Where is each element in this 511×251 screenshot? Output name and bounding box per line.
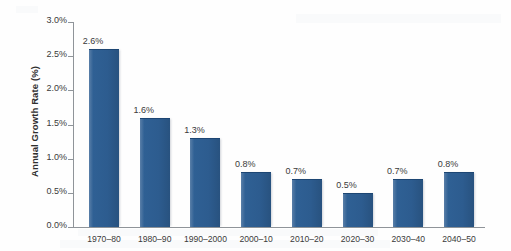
x-tick-label: 2020–30 (332, 234, 384, 244)
bar[interactable] (140, 118, 170, 227)
y-tick-mark (68, 56, 74, 57)
bar-value-label: 0.8% (422, 159, 474, 169)
x-axis-line (73, 227, 485, 228)
x-tick-label: 1980–90 (129, 234, 181, 244)
x-tick-label: 1970–80 (78, 234, 130, 244)
y-tick-label: 2.0% (46, 83, 67, 93)
bar[interactable] (343, 193, 373, 227)
y-tick-label: 1.0% (46, 152, 67, 162)
bar-value-label: 0.8% (219, 159, 271, 169)
bar-value-label: 0.5% (321, 180, 373, 190)
x-tick-label: 1990–2000 (179, 234, 231, 244)
bar-slot[interactable]: 0.7% (281, 22, 333, 227)
bar[interactable] (292, 179, 322, 227)
bar-value-label: 1.3% (168, 125, 220, 135)
y-tick-label: 0.5% (46, 186, 67, 196)
y-axis-title: Annual Growth Rate (%) (29, 42, 40, 202)
y-tick-mark (68, 159, 74, 160)
y-tick-mark (68, 22, 74, 23)
y-tick-label: 0.0% (46, 220, 67, 230)
bar[interactable] (393, 179, 423, 227)
y-tick-label: 3.0% (46, 15, 67, 25)
scan-artifact (16, 6, 38, 13)
y-tick-mark (68, 90, 74, 91)
x-tick-label: 2000–10 (230, 234, 282, 244)
x-tick-label: 2030–40 (382, 234, 434, 244)
y-tick-mark (68, 193, 74, 194)
bar-value-label: 1.6% (118, 105, 170, 115)
bar-slot[interactable]: 0.8% (433, 22, 485, 227)
bar-slot[interactable]: 0.8% (230, 22, 282, 227)
bar-value-label: 0.7% (270, 166, 322, 176)
y-tick-label: 2.5% (46, 49, 67, 59)
x-tick-label: 2010–20 (281, 234, 333, 244)
bar[interactable] (444, 172, 474, 227)
bar-slot[interactable]: 0.5% (332, 22, 384, 227)
bar-slot[interactable]: 1.3% (179, 22, 231, 227)
bar-value-label: 0.7% (371, 166, 423, 176)
y-tick-label: 1.5% (46, 118, 67, 128)
y-tick-mark (68, 125, 74, 126)
bar[interactable] (190, 138, 220, 227)
bar[interactable] (89, 49, 119, 227)
bar-slot[interactable]: 0.7% (382, 22, 434, 227)
y-tick-mark (68, 227, 74, 228)
chart-figure: Annual Growth Rate (%) 0.0%0.5%1.0%1.5%2… (0, 0, 511, 251)
bar-value-label: 2.6% (67, 36, 119, 46)
bar-slot[interactable]: 2.6% (78, 22, 130, 227)
plot-area: 0.0%0.5%1.0%1.5%2.0%2.5%3.0% 2.6%1.6%1.3… (73, 22, 485, 227)
bar[interactable] (241, 172, 271, 227)
x-tick-label: 2040–50 (433, 234, 485, 244)
